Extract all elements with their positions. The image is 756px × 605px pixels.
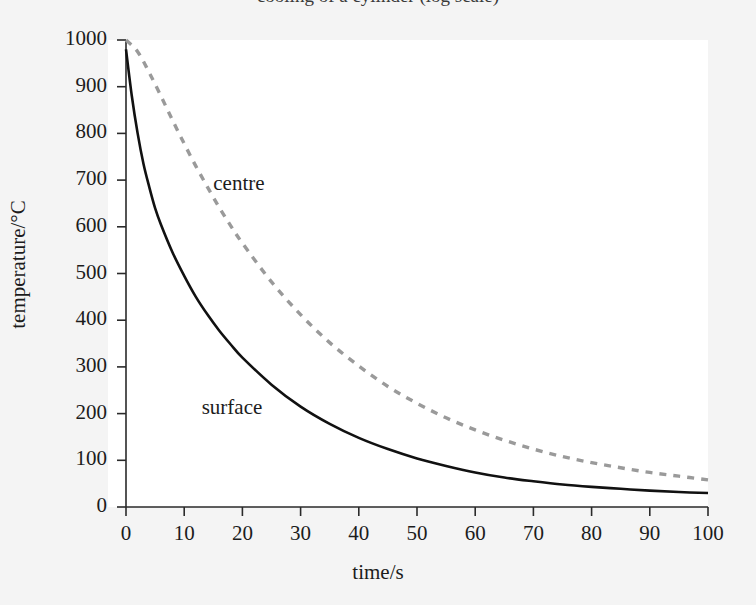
x-axis-title: time/s xyxy=(0,560,756,585)
y-tick-label-100: 100 xyxy=(7,446,107,471)
y-axis-ticks xyxy=(117,40,126,507)
y-tick-label-0: 0 xyxy=(7,493,107,518)
series-group xyxy=(126,40,708,493)
y-tick-label-800: 800 xyxy=(7,119,107,144)
x-axis-ticks xyxy=(126,507,708,516)
y-axis-title: temperature/°C xyxy=(6,165,31,365)
y-tick-label-900: 900 xyxy=(7,73,107,98)
chart-svg xyxy=(0,0,756,605)
series-line-surface xyxy=(126,49,708,493)
cooling-curve-figure: cooling of a cylinder (log scale) 010020… xyxy=(0,0,756,605)
y-tick-label-200: 200 xyxy=(7,400,107,425)
series-label-centre: centre xyxy=(213,171,264,196)
axes-group xyxy=(117,40,708,516)
x-tick-label-100: 100 xyxy=(658,521,756,546)
series-label-surface: surface xyxy=(202,395,263,420)
y-tick-label-1000: 1000 xyxy=(7,26,107,51)
